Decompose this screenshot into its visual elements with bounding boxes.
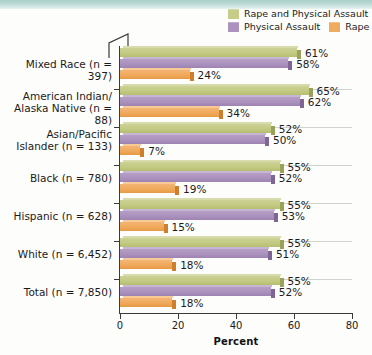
bar-end-cap	[172, 300, 176, 309]
plot-area: 61%58%24%65%62%34%52%50%7%55%52%19%55%53…	[120, 46, 352, 314]
bar-value-label-rape-0: 24%	[198, 69, 221, 81]
category-label-1: American Indian/Alaska Native (n = 88)	[0, 90, 112, 126]
bar-end-cap	[265, 137, 269, 146]
legend-swatch-purple-icon	[228, 22, 239, 32]
bar-end-cap	[190, 72, 194, 81]
bar-row: 52%	[120, 124, 352, 133]
bar-body	[120, 146, 140, 155]
bar-row: 50%	[120, 135, 352, 144]
bar-value-label-physical-assault-5: 51%	[276, 248, 299, 260]
bar-row: 7%	[120, 146, 352, 155]
bar-rape-4	[120, 222, 164, 231]
bar-row: 55%	[120, 276, 352, 285]
x-tick-80	[352, 314, 353, 319]
bar-physical-assault-6	[120, 287, 271, 296]
bar-end-cap	[274, 213, 278, 222]
bar-end-cap	[271, 289, 275, 298]
category-label-6: Total (n = 7,850)	[0, 286, 112, 298]
bar-body	[120, 287, 271, 296]
x-tick-40	[236, 314, 237, 319]
bar-physical-assault-4	[120, 211, 274, 220]
bar-body	[120, 59, 288, 68]
bar-body	[120, 211, 274, 220]
bar-value-label-rape-4: 15%	[172, 221, 195, 233]
bar-row: 61%	[120, 48, 352, 57]
bar-value-label-physical-assault-4: 53%	[282, 210, 305, 222]
legend-label-1: Physical Assault	[244, 22, 320, 32]
bar-row: 19%	[120, 184, 352, 193]
category-label-4: Hispanic (n = 628)	[0, 210, 112, 222]
category-label-line: Mixed Race (n = 397)	[0, 58, 112, 82]
bar-row: 58%	[120, 59, 352, 68]
bar-physical-assault-2	[120, 135, 265, 144]
category-label-line: American Indian/	[0, 90, 112, 102]
bar-group-0: 61%58%24%	[120, 48, 352, 79]
bar-physical-assault-1	[120, 97, 300, 106]
bar-row: 34%	[120, 108, 352, 117]
category-label-line: White (n = 6,452)	[0, 248, 112, 260]
bar-body	[120, 200, 280, 209]
legend-label-2: Rape	[345, 22, 369, 32]
bar-group-6: 55%52%18%	[120, 276, 352, 307]
category-label-line: Islander (n = 133)	[0, 140, 112, 152]
bar-value-label-rape-2: 7%	[148, 145, 165, 157]
bar-body	[120, 86, 309, 95]
bar-rape-and-physical-assault-4	[120, 200, 280, 209]
x-tick-label-20: 20	[172, 320, 185, 331]
x-tick-20	[178, 314, 179, 319]
bar-row: 55%	[120, 238, 352, 247]
bar-rape-and-physical-assault-1	[120, 86, 309, 95]
bar-rape-5	[120, 260, 172, 269]
bar-physical-assault-0	[120, 59, 288, 68]
bar-body	[120, 173, 271, 182]
bar-body	[120, 162, 280, 171]
bar-end-cap	[140, 148, 144, 157]
bar-end-cap	[172, 262, 176, 271]
bar-value-label-rape-1: 34%	[227, 107, 250, 119]
x-tick-label-60: 60	[288, 320, 301, 331]
category-label-line: Total (n = 7,850)	[0, 286, 112, 298]
legend-item-rape-and-physical-assault: Rape and Physical Assault	[228, 9, 372, 19]
bar-end-cap	[300, 99, 304, 108]
bar-value-label-physical-assault-2: 50%	[273, 134, 296, 146]
bar-end-cap	[268, 251, 272, 260]
bar-group-2: 52%50%7%	[120, 124, 352, 155]
bar-rape-and-physical-assault-0	[120, 48, 297, 57]
bar-row: 53%	[120, 211, 352, 220]
x-tick-label-0: 0	[117, 320, 123, 331]
bar-group-3: 55%52%19%	[120, 162, 352, 193]
bar-group-5: 55%51%18%	[120, 238, 352, 269]
bar-value-label-physical-assault-6: 52%	[279, 286, 302, 298]
category-label-2: Asian/PacificIslander (n = 133)	[0, 128, 112, 152]
bar-body	[120, 276, 280, 285]
bar-rape-6	[120, 298, 172, 307]
bar-rape-1	[120, 108, 219, 117]
bar-value-label-rape-6: 18%	[180, 297, 203, 309]
bar-rape-3	[120, 184, 175, 193]
bar-body	[120, 238, 280, 247]
bar-body	[120, 260, 172, 269]
bar-body	[120, 298, 172, 307]
bar-body	[120, 124, 271, 133]
bar-row: 51%	[120, 249, 352, 258]
category-label-line: Asian/Pacific	[0, 128, 112, 140]
bar-row: 24%	[120, 70, 352, 79]
category-label-line: Black (n = 780)	[0, 172, 112, 184]
chart-legend: Rape and Physical Assault Physical Assau…	[228, 9, 372, 35]
bar-rape-and-physical-assault-6	[120, 276, 280, 285]
legend-swatch-orange-icon	[329, 22, 340, 32]
bar-end-cap	[271, 175, 275, 184]
bar-group-1: 65%62%34%	[120, 86, 352, 117]
x-tick-0	[120, 314, 121, 319]
category-label-line: Hispanic (n = 628)	[0, 210, 112, 222]
bar-rape-2	[120, 146, 140, 155]
bar-end-cap	[175, 186, 179, 195]
bar-row: 62%	[120, 97, 352, 106]
bar-row: 52%	[120, 173, 352, 182]
bar-row: 52%	[120, 287, 352, 296]
bar-body	[120, 108, 219, 117]
x-axis-title: Percent	[213, 336, 258, 347]
bar-body	[120, 97, 300, 106]
category-label-3: Black (n = 780)	[0, 172, 112, 184]
category-label-line: Alaska Native (n = 88)	[0, 102, 112, 126]
